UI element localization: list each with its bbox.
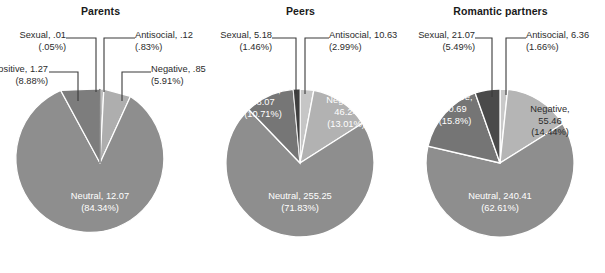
label-sexual: Sexual, 5.18 (1.46%)	[200, 30, 272, 53]
label-negative: Negative, .85 (5.91%)	[151, 64, 206, 87]
chart-panel-parents: Parents	[0, 0, 201, 273]
leader-antisocial	[104, 38, 135, 92]
label-sexual: Sexual, 21.07 (5.49%)	[397, 30, 475, 53]
leader-sexual	[475, 38, 492, 97]
label-sexual: Sexual, .01 (.05%)	[0, 30, 66, 53]
label-negative: Negative, 46.24 (13.01%)	[308, 95, 384, 130]
label-antisocial: Antisocial, 6.36 (1.66%)	[526, 30, 589, 53]
leader-sexual	[66, 38, 96, 92]
label-positive: Positive, 38.07 (10.71%)	[228, 85, 298, 120]
chart-panel-romantic-partners: Romantic partners Sexual, 21.07 (5.	[400, 0, 601, 273]
label-neutral: Neutral, 12.07 (84.34%)	[35, 191, 165, 215]
label-positive: Positive, 1.27 (8.88%)	[0, 64, 48, 87]
label-antisocial: Antisocial, 10.63 (2.99%)	[329, 30, 397, 53]
label-positive: Positive, 60.69 (15.8%)	[420, 92, 490, 127]
leader-antisocial	[506, 38, 526, 95]
chart-panel-peers: Peers Sexual, 5.18 (1.46%)	[200, 0, 401, 273]
label-neutral: Neutral, 255.25 (71.83%)	[233, 191, 367, 215]
label-neutral: Neutral, 240.41 (62.61%)	[433, 191, 567, 215]
leader-lines	[475, 38, 526, 97]
label-antisocial: Antisocial, .12 (.83%)	[135, 30, 193, 53]
leader-antisocial	[305, 38, 329, 94]
label-negative: Negative, 55.46 (14.44%)	[511, 104, 589, 139]
pie-chart-figure: Parents	[0, 0, 605, 273]
